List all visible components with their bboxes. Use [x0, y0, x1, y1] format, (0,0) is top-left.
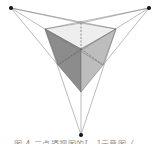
vanishing-point-bottom [79, 133, 83, 137]
figure-caption: 图 4 三点透视图的[…]示意图（… [0, 138, 157, 144]
three-point-perspective-diagram [0, 0, 157, 144]
vanishing-point-left [9, 6, 13, 10]
vanishing-point-right [147, 6, 151, 10]
